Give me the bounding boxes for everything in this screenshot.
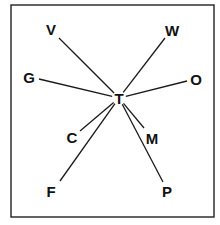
edge-w-t: [123, 38, 165, 92]
node-label-o: O: [190, 71, 202, 88]
edges: [39, 38, 187, 182]
star-diagram: VWGOCMFP T: [0, 0, 220, 225]
node-labels: VWGOCMFP: [23, 21, 202, 200]
edge-m-t: [123, 103, 144, 128]
node-label-p: P: [162, 183, 172, 200]
node-label-c: C: [67, 129, 78, 146]
edge-v-t: [59, 38, 114, 93]
node-label-m: M: [146, 130, 159, 147]
node-label-w: W: [165, 22, 180, 39]
node-label-f: F: [46, 183, 55, 200]
node-label-g: G: [23, 69, 35, 86]
center-node-label: T: [114, 90, 123, 107]
diagram-frame: [11, 5, 214, 217]
edge-g-t: [39, 79, 112, 96]
edge-c-t: [80, 103, 114, 131]
node-label-v: V: [46, 21, 56, 38]
edge-o-t: [126, 81, 187, 96]
